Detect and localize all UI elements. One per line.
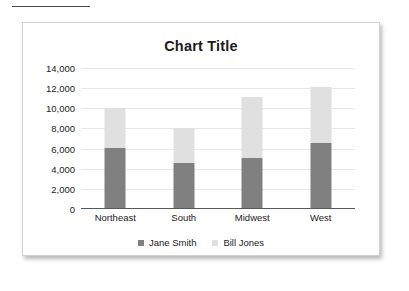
horizontal-rule xyxy=(12,6,90,7)
bar-slot xyxy=(150,68,219,209)
bar-segment[interactable] xyxy=(105,148,126,209)
bar-segment[interactable] xyxy=(310,143,331,209)
stacked-bar[interactable] xyxy=(242,97,263,209)
legend-swatch-icon xyxy=(212,240,218,246)
bar-segment[interactable] xyxy=(242,158,263,209)
x-axis-tick-label: Midwest xyxy=(218,212,287,223)
stacked-bar[interactable] xyxy=(173,128,194,209)
bar-segment[interactable] xyxy=(173,163,194,209)
chart-card: Chart Title 14,00012,00010,0008,0006,000… xyxy=(22,22,380,256)
x-axis-tick-label: South xyxy=(150,212,219,223)
bar-segment[interactable] xyxy=(105,108,126,147)
x-axis-line xyxy=(81,208,355,209)
x-axis-tick-label: West xyxy=(287,212,356,223)
legend-swatch-icon xyxy=(138,240,144,246)
stacked-bar[interactable] xyxy=(310,87,331,209)
legend-label: Bill Jones xyxy=(223,237,264,248)
x-axis-tick-label: Northeast xyxy=(81,212,150,223)
legend-item[interactable]: Jane Smith xyxy=(138,237,197,248)
chart-legend: Jane SmithBill Jones xyxy=(23,237,379,248)
legend-label: Jane Smith xyxy=(149,237,197,248)
x-axis-tick-labels: NortheastSouthMidwestWest xyxy=(81,212,355,228)
bar-segment[interactable] xyxy=(242,97,263,157)
bar-slot xyxy=(218,68,287,209)
legend-item[interactable]: Bill Jones xyxy=(212,237,264,248)
bar-slot xyxy=(287,68,356,209)
stacked-bar[interactable] xyxy=(105,108,126,209)
bar-slot xyxy=(81,68,150,209)
plot-area xyxy=(81,68,355,209)
bar-segment[interactable] xyxy=(310,87,331,142)
bar-segment[interactable] xyxy=(173,128,194,162)
